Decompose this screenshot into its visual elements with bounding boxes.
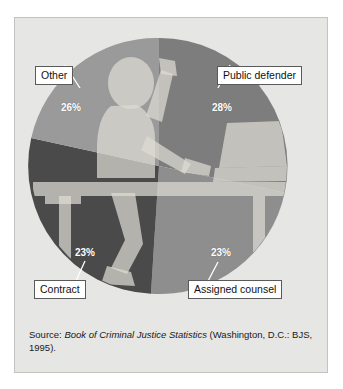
callout-label-public-defender: Public defender xyxy=(217,66,302,85)
silhouette-monitor-screen xyxy=(219,121,287,168)
source-prefix: Source: xyxy=(29,329,62,340)
source-title: Book of Criminal Justice Statistics xyxy=(64,329,207,340)
slice-value-public-defender: 28% xyxy=(212,102,232,113)
chart-panel: 26% 28% 23% 23% Other Public defender Co… xyxy=(14,17,328,373)
silhouette-desk-top xyxy=(33,182,303,196)
callout-label-assigned-counsel: Assigned counsel xyxy=(188,280,282,299)
silhouette-monitor-base xyxy=(213,166,293,182)
pie-chart-svg xyxy=(15,18,329,318)
pie-chart-area: 26% 28% 23% 23% Other Public defender Co… xyxy=(15,18,329,318)
callout-label-contract: Contract xyxy=(34,280,86,299)
slice-value-other: 26% xyxy=(61,102,81,113)
slice-value-assigned-counsel: 23% xyxy=(211,247,231,258)
source-note: Source: Book of Criminal Justice Statist… xyxy=(29,328,314,354)
silhouette-desk-stretcher xyxy=(45,196,81,204)
silhouette-head xyxy=(108,57,154,109)
slice-value-contract: 23% xyxy=(75,247,95,258)
figure-container: 26% 28% 23% 23% Other Public defender Co… xyxy=(0,0,343,389)
callout-label-other: Other xyxy=(35,66,73,85)
